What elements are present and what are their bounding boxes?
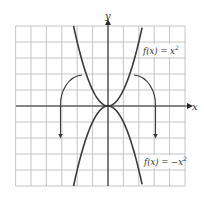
y-axis-label: y xyxy=(104,10,111,21)
label-f-x-squared: f(x) = x2 xyxy=(142,44,179,56)
label-f-neg-x-squared: f(x) = −x2 xyxy=(143,155,187,167)
parabola-reflection-chart: x y f(x) = x2 f(x) = −x2 xyxy=(0,0,204,199)
x-axis-label: x xyxy=(192,101,198,112)
